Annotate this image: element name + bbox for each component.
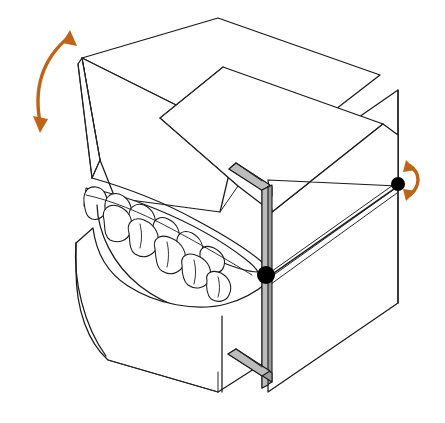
articulator-diagram-canvas: [0, 0, 445, 423]
condylar-hinge-pivot: [257, 266, 275, 284]
dental-articulator-figure: [0, 0, 445, 423]
condylar-hinge-pivot-right: [391, 177, 405, 191]
